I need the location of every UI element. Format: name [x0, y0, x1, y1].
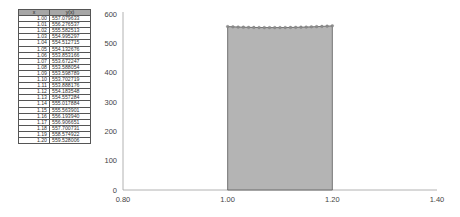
y-tick-label: 600	[104, 10, 117, 19]
x-tick-label: 0.80	[116, 195, 131, 204]
data-point	[232, 25, 235, 28]
data-point	[300, 26, 303, 29]
series-y-of-x	[226, 24, 333, 190]
y-tick-label: 200	[104, 127, 117, 136]
y-tick-label: 400	[104, 68, 117, 77]
data-point	[252, 26, 255, 29]
y-axis: 0100200300400500600	[104, 10, 123, 195]
x-axis: 0.801.001.201.40	[116, 190, 445, 204]
x-tick-label: 1.00	[220, 195, 235, 204]
data-point	[310, 25, 313, 28]
y-tick-label: 0	[113, 186, 117, 195]
data-point	[331, 24, 334, 27]
y-tick-label: 100	[104, 156, 117, 165]
area-fill	[228, 26, 333, 190]
data-point	[320, 25, 323, 28]
x-tick-label: 1.20	[325, 195, 340, 204]
data-point	[315, 25, 318, 28]
data-point	[289, 26, 292, 29]
data-point	[258, 26, 261, 29]
data-point	[279, 26, 282, 29]
data-point	[326, 25, 329, 28]
area-chart: 0100200300400500600 0.801.001.201.40	[0, 0, 460, 217]
data-point	[237, 26, 240, 29]
y-tick-label: 500	[104, 39, 117, 48]
data-point	[305, 26, 308, 29]
data-point	[273, 26, 276, 29]
data-point	[284, 26, 287, 29]
y-tick-label: 300	[104, 98, 117, 107]
data-point	[268, 26, 271, 29]
data-point	[294, 26, 297, 29]
data-point	[247, 26, 250, 29]
data-point	[242, 26, 245, 29]
x-tick-label: 1.40	[430, 195, 445, 204]
data-point	[226, 25, 229, 28]
data-point	[263, 26, 266, 29]
